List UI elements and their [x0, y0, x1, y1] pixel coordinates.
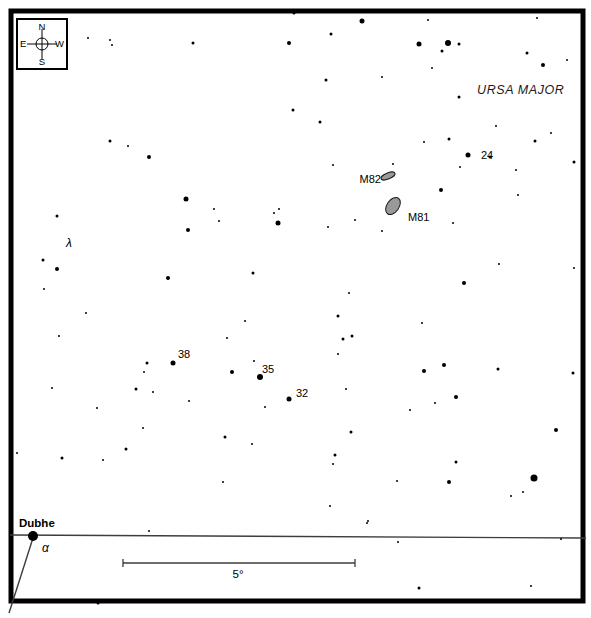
star-dot [418, 587, 421, 590]
star-dot [554, 428, 558, 432]
star-dot [146, 362, 149, 365]
label-star-lambda: λ [65, 236, 72, 250]
star-dot [111, 44, 113, 46]
star-dot [541, 63, 545, 67]
star-dot [273, 212, 275, 214]
compass-east-label: E [20, 39, 26, 49]
star-dot [135, 388, 138, 391]
star-dot [421, 322, 423, 324]
star-dot [43, 288, 45, 290]
star-dot [97, 602, 100, 605]
label-star-24: 24 [481, 149, 493, 161]
star-dot [337, 315, 340, 318]
star-dot [329, 505, 331, 507]
star-dot [109, 140, 112, 143]
star-dot [192, 42, 195, 45]
star-dot [498, 263, 500, 265]
galaxy-label-m81: M81 [408, 211, 429, 223]
star-dot [262, 601, 264, 603]
star-dot [566, 59, 568, 61]
star-dot [536, 17, 538, 19]
star-dot [147, 155, 151, 159]
chart-frame [11, 11, 583, 601]
star-dot [61, 457, 64, 460]
star-dot [85, 312, 87, 314]
star-dot [367, 520, 369, 522]
star-dot [445, 40, 451, 46]
star-dot [572, 372, 575, 375]
star-dot [526, 52, 529, 55]
star-dot [293, 12, 296, 15]
star-dot [218, 220, 220, 222]
star-dot [517, 194, 519, 196]
star-dot [251, 443, 253, 445]
star-dot [109, 39, 111, 41]
star-dot [515, 169, 517, 171]
label-star-35: 35 [262, 363, 274, 375]
star-dot [325, 79, 328, 82]
star-dot [462, 281, 466, 285]
star-dot [351, 335, 354, 338]
galaxy-m82 [380, 170, 396, 181]
star-dot [287, 397, 292, 402]
star-dot [381, 76, 383, 78]
constellation-boundary-line [10, 535, 586, 538]
star-dot [531, 475, 538, 482]
star-dot [319, 121, 322, 124]
label-star-38: 38 [178, 348, 190, 360]
star-dot [42, 259, 45, 262]
star-dot [171, 361, 176, 366]
star-dot [396, 480, 398, 482]
star-dot [345, 388, 347, 390]
star-dot [276, 221, 281, 226]
star-dot [495, 125, 497, 127]
star-dot [230, 370, 234, 374]
galaxy-m81 [383, 195, 404, 217]
star-dot [332, 164, 334, 166]
star-dot [354, 219, 356, 221]
scale-bar-label: 5° [233, 568, 244, 580]
star-dot [184, 197, 189, 202]
star-dot [253, 360, 255, 362]
star-dot [381, 230, 383, 232]
star-dot [252, 272, 255, 275]
star-dot [125, 448, 128, 451]
label-star-alpha: α [42, 541, 50, 555]
star-dot [441, 50, 444, 53]
star-dot [534, 140, 537, 143]
star-dot [550, 132, 552, 134]
star-dot [148, 530, 150, 532]
star-dot [143, 371, 145, 373]
star-dot [347, 600, 349, 602]
compass-west-label: W [55, 39, 64, 49]
compass-rose: N E S W [16, 18, 68, 70]
star-dot [573, 161, 576, 164]
star-dot [330, 33, 333, 36]
star-dot [287, 41, 291, 45]
star-dot [332, 463, 334, 465]
star-dot [292, 109, 295, 112]
star-dot [186, 228, 190, 232]
star-dot [423, 141, 425, 143]
star-dubhe [28, 531, 38, 541]
star-chart-page: 5°M82M8124383532λαDubhe N E S W URSA MAJ… [0, 0, 591, 618]
star-dot [458, 43, 461, 46]
star-dot [127, 145, 129, 147]
star-dot [55, 267, 59, 271]
star-dot [510, 495, 512, 497]
star-dot [188, 400, 190, 402]
star-dot [366, 522, 368, 524]
star-dot [397, 541, 399, 543]
compass-north-label: N [39, 22, 46, 32]
star-dot [458, 96, 461, 99]
star-dot [334, 454, 337, 457]
star-dot [152, 391, 154, 393]
star-dot [264, 406, 266, 408]
star-dot [102, 459, 104, 461]
star-dot [427, 19, 429, 21]
star-dot [51, 387, 53, 389]
constellation-label: URSA MAJOR [477, 83, 565, 97]
star-dot [434, 402, 436, 404]
star-dot [166, 276, 170, 280]
star-dot [226, 337, 228, 339]
